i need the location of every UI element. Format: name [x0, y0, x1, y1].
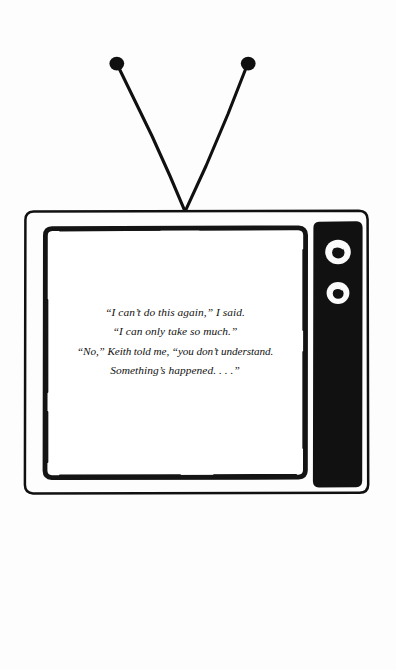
antenna-right-knob-icon	[241, 57, 256, 71]
tv-control-panel	[313, 221, 363, 487]
illustration-page: “I can’t do this again,” I said. “I can …	[0, 0, 396, 670]
screen-quote-line-4: Something’s happened. . . .”	[48, 361, 302, 380]
screen-quote-line-2: “I can only take so much.”	[48, 322, 302, 341]
screen-quote-line-1: “I can’t do this again,” I said.	[48, 303, 302, 322]
antenna-left-rod	[118, 67, 184, 211]
antenna-left-knob-icon	[109, 57, 124, 71]
rabbit-ear-antenna	[109, 57, 255, 211]
channel-dial[interactable]	[325, 240, 351, 264]
screen-quote-text: “I can’t do this again,” I said. “I can …	[48, 303, 302, 381]
screen-quote-line-3: “No,” Keith told me, “you don’t understa…	[48, 342, 302, 361]
tuning-dial[interactable]	[327, 282, 350, 304]
antenna-right-rod	[186, 67, 247, 211]
